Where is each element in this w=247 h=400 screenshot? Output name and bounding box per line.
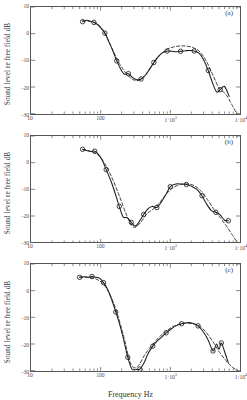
y-axis-ticklabels-a: 100-10-20-30 xyxy=(16,0,30,129)
x-tick-label: 1·103 xyxy=(164,243,176,251)
y-tick-label: 10 xyxy=(23,132,29,138)
x-tick-label: 1·103 xyxy=(164,372,176,380)
figure-container: Sound level re free field dB 100-10-20-3… xyxy=(0,0,247,400)
y-axis-title-text: Sound level re free field dB xyxy=(4,152,12,234)
y-tick-label: -20 xyxy=(22,342,29,348)
plot-frame-c xyxy=(30,263,241,372)
x-tick-label: 1·104 xyxy=(235,243,247,251)
panel-c: Sound level re free field dB 100-10-20-3… xyxy=(0,257,247,400)
plot-svg-a xyxy=(31,7,240,114)
y-tick-label: -20 xyxy=(22,85,29,91)
y-axis-title-text: Sound level re free field dB xyxy=(4,23,12,105)
plot-area-b: (b) 101001·1031·104 xyxy=(30,129,247,258)
plot-frame-b xyxy=(30,135,241,244)
x-tick-label: 10 xyxy=(27,115,33,121)
y-tick-label: 0 xyxy=(26,159,29,165)
plot-area-c: (c) 101001·1031·104 xyxy=(30,257,247,386)
y-tick-label: -20 xyxy=(22,213,29,219)
y-axis-title-b: Sound level re free field dB xyxy=(0,129,16,258)
plot-frame-a xyxy=(30,6,241,115)
y-axis-ticklabels-b: 100-10-20-30 xyxy=(16,129,30,258)
y-tick-label: 0 xyxy=(26,30,29,36)
y-tick-label: -10 xyxy=(22,57,29,63)
y-tick-label: 0 xyxy=(26,288,29,294)
plot-area-a: (a) 101001·1031·104 xyxy=(30,0,247,129)
x-tick-label: 1·103 xyxy=(164,115,176,123)
x-tick-label: 10 xyxy=(27,372,33,378)
y-tick-label: -10 xyxy=(22,315,29,321)
plot-svg-c xyxy=(31,264,240,371)
x-tick-label: 10 xyxy=(27,243,33,249)
x-tick-label: 1·104 xyxy=(235,115,247,123)
panel-b: Sound level re free field dB 100-10-20-3… xyxy=(0,129,247,258)
panel-label-c: (c) xyxy=(225,266,233,274)
y-tick-label: 10 xyxy=(23,260,29,266)
x-tick-label: 100 xyxy=(96,372,104,378)
panel-label-b: (b) xyxy=(225,138,233,146)
y-axis-title-a: Sound level re free field dB xyxy=(0,0,16,129)
x-tick-label: 100 xyxy=(96,115,104,121)
y-axis-title-c: Sound level re free field dB xyxy=(0,257,16,386)
panel-label-a: (a) xyxy=(225,9,233,17)
x-axis-ticklabels-b: 101001·1031·104 xyxy=(30,243,241,255)
x-axis-ticklabels-a: 101001·1031·104 xyxy=(30,115,241,127)
y-tick-label: 10 xyxy=(23,3,29,9)
plot-svg-b xyxy=(31,136,240,243)
x-axis-ticklabels-c: 101001·1031·104 xyxy=(30,372,241,384)
x-tick-label: 100 xyxy=(96,243,104,249)
y-axis-ticklabels-c: 100-10-20-30 xyxy=(16,257,30,386)
y-axis-title-text: Sound level re free field dB xyxy=(4,280,12,362)
y-tick-label: -10 xyxy=(22,186,29,192)
x-axis-title: Frequency Hz xyxy=(0,390,247,399)
x-axis-title-text: Frequency Hz xyxy=(94,390,153,399)
x-tick-label: 1·104 xyxy=(235,372,247,380)
panel-a: Sound level re free field dB 100-10-20-3… xyxy=(0,0,247,129)
